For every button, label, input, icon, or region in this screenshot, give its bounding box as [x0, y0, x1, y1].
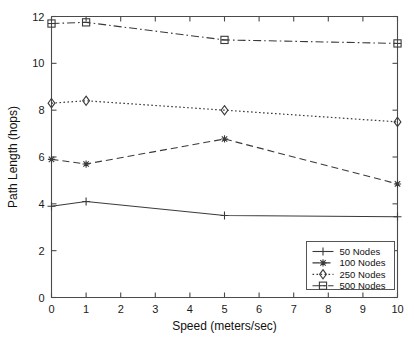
x-tick-label-3: 3: [152, 303, 158, 315]
datapoint-50-nodes-x5: [221, 212, 229, 220]
y-tick-label-6: 6: [38, 151, 44, 163]
chart-figure: 012345678910024681012Speed (meters/sec)P…: [0, 0, 413, 343]
x-tick-label-7: 7: [291, 303, 297, 315]
line-chart: 012345678910024681012Speed (meters/sec)P…: [0, 0, 413, 343]
series-line-100-nodes: [52, 139, 398, 184]
datapoint-100-nodes-x1: [83, 160, 90, 167]
y-axis-label: Path Length (hops): [6, 106, 20, 208]
datapoint-50-nodes-x10: [394, 213, 402, 221]
datapoint-100-nodes-x0: [48, 156, 55, 163]
y-tick-label-10: 10: [32, 57, 44, 69]
y-tick-label-4: 4: [38, 198, 44, 210]
x-tick-label-4: 4: [187, 303, 193, 315]
series-line-250-nodes: [52, 101, 398, 122]
datapoint-100-nodes-x10: [394, 180, 401, 187]
legend-label-250-nodes: 250 Nodes: [340, 269, 386, 280]
x-tick-label-5: 5: [221, 303, 227, 315]
datapoint-100-nodes-x5: [221, 135, 228, 142]
x-tick-label-6: 6: [256, 303, 262, 315]
x-tick-label-0: 0: [48, 303, 54, 315]
x-tick-label-1: 1: [83, 303, 89, 315]
x-tick-label-10: 10: [391, 303, 403, 315]
y-tick-label-8: 8: [38, 104, 44, 116]
x-tick-label-2: 2: [118, 303, 124, 315]
y-tick-label-12: 12: [32, 11, 44, 23]
y-tick-label-2: 2: [38, 245, 44, 257]
legend-label-50-nodes: 50 Nodes: [340, 246, 381, 257]
x-tick-label-8: 8: [325, 303, 331, 315]
x-axis-label: Speed (meters/sec): [172, 319, 277, 333]
legend-marker-100-nodes: [319, 259, 326, 266]
legend-label-500-nodes: 500 Nodes: [340, 280, 386, 291]
y-tick-label-0: 0: [38, 292, 44, 304]
x-tick-label-9: 9: [360, 303, 366, 315]
legend-label-100-nodes: 100 Nodes: [340, 257, 386, 268]
datapoint-50-nodes-x1: [82, 197, 90, 205]
